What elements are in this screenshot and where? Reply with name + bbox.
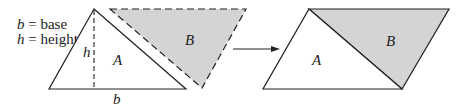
base-label: b	[113, 91, 121, 107]
triangle-b-label-left: B	[185, 32, 194, 48]
legend-height: h = height	[17, 31, 79, 47]
legend-base: b = base	[17, 16, 67, 32]
triangle-b-label-right: B	[386, 33, 395, 49]
triangle-to-parallelogram-diagram: b = base h = height B h A b A B	[0, 0, 463, 107]
triangle-a-label-left: A	[112, 52, 123, 68]
arrow-icon	[233, 46, 280, 52]
triangle-a-label-right: A	[311, 52, 322, 68]
height-label: h	[83, 44, 91, 60]
